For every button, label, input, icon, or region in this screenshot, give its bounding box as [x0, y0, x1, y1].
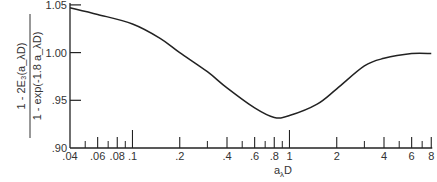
x-tick-label: .2: [175, 150, 184, 162]
x-tick-label: 4: [381, 150, 387, 162]
y-axis-label-denominator: 1 - exp(-1.8 a_λD): [31, 32, 43, 121]
chart: .90.951.001.05 .04.06.08.1.2.4.6.812468 …: [0, 0, 437, 182]
y-tick-label: 1.05: [46, 0, 67, 11]
x-tick-label: 8: [428, 150, 434, 162]
x-tick-label: .6: [250, 150, 259, 162]
x-tick-label: .06: [90, 150, 105, 162]
x-tick-label: 6: [409, 150, 415, 162]
y-axis-ticks: .90.951.001.05: [46, 0, 81, 154]
y-tick-label: 1.00: [46, 47, 67, 59]
x-axis-ticks: .04.06.08.1.2.4.6.812468: [62, 130, 434, 162]
x-tick-label: .4: [222, 150, 231, 162]
axes: [70, 3, 432, 148]
y-axis-label: 1 - 2E₃(a_λD) 1 - exp(-1.8 a_λD): [15, 14, 43, 138]
x-axis-label: aλD: [274, 164, 292, 179]
x-tick-label: 1: [286, 150, 292, 162]
y-axis-label-numerator: 1 - 2E₃(a_λD): [15, 43, 27, 110]
y-tick-label: .95: [52, 94, 67, 106]
x-tick-label: .8: [270, 150, 279, 162]
x-tick-label: .1: [128, 150, 137, 162]
x-tick-label: 2: [334, 150, 340, 162]
data-curve: [70, 8, 431, 118]
x-tick-label: .08: [110, 150, 125, 162]
x-tick-label: .04: [62, 150, 77, 162]
